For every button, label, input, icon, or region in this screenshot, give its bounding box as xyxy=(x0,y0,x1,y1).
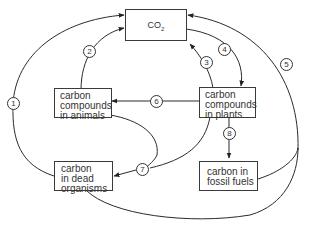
node-co2: CO2 xyxy=(125,9,187,41)
label-6: 6 xyxy=(150,95,163,108)
node-carbon-in-dead-organisms: carbon in dead organisms xyxy=(54,161,113,191)
fossil-line-2: fossil fuels xyxy=(207,177,257,187)
label-8: 8 xyxy=(223,127,236,140)
node-carbon-in-fossil-fuels: carbon in fossil fuels xyxy=(199,161,258,191)
animals-line-3: in animals xyxy=(60,111,111,121)
carbon-cycle-diagram: CO2 carbon compounds in animals carbon c… xyxy=(0,0,315,233)
label-2: 2 xyxy=(83,45,96,58)
dead-line-3: organisms xyxy=(61,184,112,194)
arrow-7 xyxy=(114,170,136,176)
co2-label: CO2 xyxy=(126,10,186,44)
label-7: 7 xyxy=(136,163,149,176)
label-3: 3 xyxy=(200,56,213,69)
plants-line-3: in plants xyxy=(205,110,255,120)
label-1: 1 xyxy=(7,97,20,110)
node-carbon-compounds-in-animals: carbon compounds in animals xyxy=(54,88,112,118)
label-4: 4 xyxy=(218,43,231,56)
arrow-5 xyxy=(188,15,298,150)
arrow-2 xyxy=(81,28,124,90)
node-carbon-compounds-in-plants: carbon compounds in plants xyxy=(199,87,256,118)
arrow-4 xyxy=(186,29,242,86)
label-5: 5 xyxy=(280,58,293,71)
